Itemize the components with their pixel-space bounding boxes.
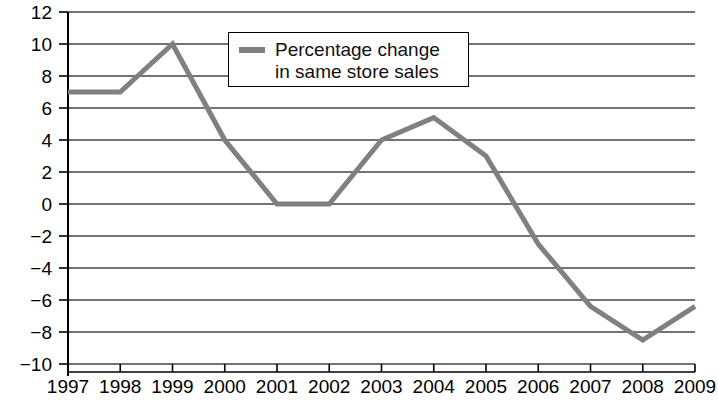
x-axis-tick-label: 2004 [413,377,455,396]
legend-line-swatch-icon [239,47,265,53]
x-axis-tick-label: 1997 [47,377,89,396]
x-axis-tick-label: 2009 [674,377,716,396]
x-axis-tick-label: 1998 [99,377,141,396]
x-axis-tick-label: 2006 [517,377,559,396]
x-axis-tick-label: 2005 [465,377,507,396]
x-axis-tick-label: 1999 [151,377,193,396]
x-axis-tick-label: 2001 [256,377,298,396]
x-axis-tick-label: 2007 [569,377,611,396]
x-axis-tick-label: 2003 [360,377,402,396]
legend-label: Percentage change in same store sales [275,39,440,83]
x-axis-tick-label: 2002 [308,377,350,396]
x-axis-tick-label: 2000 [204,377,246,396]
chart-legend: Percentage change in same store sales [228,32,469,87]
chart-container: 121086420−2−4−6−8−10 1997199819992000200… [0,0,718,404]
x-axis-tick-label: 2008 [622,377,664,396]
